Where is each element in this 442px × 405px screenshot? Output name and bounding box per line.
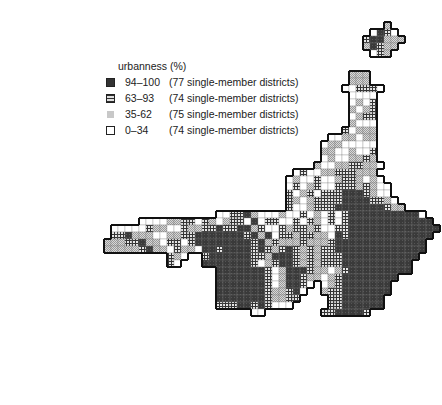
district-cell [237,260,244,267]
district-cell [363,211,370,218]
district-cell [370,218,377,225]
district-cell [335,155,342,162]
district-cell [363,78,370,85]
district-cell [349,183,356,190]
district-cell [342,309,349,316]
district-cell [363,148,370,155]
district-cell [286,260,293,267]
district-cell [321,176,328,183]
district-cell [363,253,370,260]
district-cell [286,232,293,239]
district-cell [272,246,279,253]
district-cell [321,162,328,169]
district-cell [300,169,307,176]
district-cell [251,218,258,225]
district-cell [377,225,384,232]
district-cell [244,288,251,295]
district-cell [377,253,384,260]
district-cell [251,267,258,274]
district-cell [391,274,398,281]
district-cell [377,302,384,309]
legend-item-35-62: 35-62 (75 single-member districts) [106,106,299,122]
district-cell [307,267,314,274]
district-cell [419,246,426,253]
district-cell [258,274,265,281]
district-cell [370,29,377,36]
district-cell [349,218,356,225]
district-cell [258,267,265,274]
district-cell [391,211,398,218]
district-cell [349,71,356,78]
district-cell [370,85,377,92]
district-cell [237,302,244,309]
legend-count: (74 single-member districts) [169,90,299,106]
district-cell [384,211,391,218]
district-cell [230,225,237,232]
district-cell [202,218,209,225]
district-cell [237,246,244,253]
district-cell [342,169,349,176]
district-cell [328,253,335,260]
district-cell [265,239,272,246]
district-cell [216,218,223,225]
district-cell [405,267,412,274]
district-cell [370,134,377,141]
district-cell [384,260,391,267]
district-cell [244,302,251,309]
district-cell [202,253,209,260]
district-cell [349,85,356,92]
district-cell [104,246,111,253]
district-cell [321,155,328,162]
district-cell [244,218,251,225]
district-cell [356,106,363,113]
district-cell [335,141,342,148]
district-cell [342,190,349,197]
district-cell [370,267,377,274]
district-cell [244,239,251,246]
district-cell [223,274,230,281]
district-cell [314,218,321,225]
district-cell [377,232,384,239]
district-cell [391,232,398,239]
district-cell [398,211,405,218]
district-cell [230,295,237,302]
district-cell [370,113,377,120]
district-cell [356,267,363,274]
district-cell [363,120,370,127]
district-cell [223,281,230,288]
district-cell [307,253,314,260]
district-cell [286,246,293,253]
district-cell [356,71,363,78]
legend-item-0-34: 0–34 (74 single-member districts) [106,122,299,138]
district-cell [300,239,307,246]
district-cell [251,211,258,218]
district-cell [223,260,230,267]
stipple-swatch-icon [106,110,115,119]
district-cell [307,218,314,225]
district-cell [328,134,335,141]
district-cell [321,239,328,246]
district-cell [272,253,279,260]
district-cell [363,232,370,239]
district-cell [384,50,391,57]
district-cell [195,225,202,232]
district-cell [167,253,174,260]
district-cell [258,232,265,239]
district-cell [251,232,258,239]
district-cell [349,176,356,183]
district-cell [167,232,174,239]
district-cell [125,232,132,239]
district-cell [174,232,181,239]
district-cell [195,218,202,225]
district-cell [174,218,181,225]
district-cell [363,288,370,295]
district-cell [293,204,300,211]
district-cell [258,302,265,309]
district-cell [363,246,370,253]
district-cell [293,183,300,190]
district-cell [384,197,391,204]
district-cell [349,204,356,211]
district-cell [286,190,293,197]
district-cell [342,211,349,218]
district-cell [230,302,237,309]
